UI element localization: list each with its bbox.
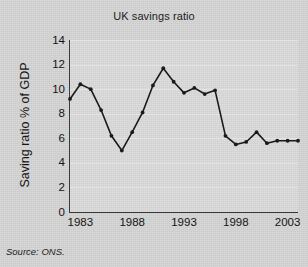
data-point-marker	[78, 82, 82, 86]
data-point-marker	[296, 139, 300, 143]
chart-figure: UK savings ratio Saving ratio % of GDP 0…	[0, 0, 308, 267]
data-point-marker	[151, 84, 155, 88]
x-tick-label: 1998	[214, 216, 258, 228]
data-point-marker	[99, 108, 103, 112]
data-point-marker	[141, 111, 145, 115]
data-point-marker	[203, 92, 207, 96]
x-tick-label: 1988	[110, 216, 154, 228]
data-point-marker	[182, 91, 186, 95]
data-point-marker	[286, 139, 290, 143]
data-point-marker	[192, 86, 196, 90]
x-tick-label: 1993	[162, 216, 206, 228]
data-point-marker	[68, 97, 72, 101]
data-point-marker	[265, 141, 269, 145]
data-point-marker	[275, 139, 279, 143]
data-point-marker	[161, 66, 165, 70]
x-tick-label: 1983	[58, 216, 102, 228]
data-point-marker	[244, 140, 248, 144]
data-point-marker	[255, 130, 259, 134]
data-point-marker	[172, 80, 176, 84]
data-point-marker	[213, 88, 217, 92]
series-polyline	[70, 68, 298, 150]
data-point-marker	[110, 134, 114, 138]
x-tick-label: 2003	[266, 216, 308, 228]
source-note: Source: ONS.	[6, 246, 65, 257]
data-point-marker	[89, 87, 93, 91]
data-point-marker	[130, 130, 134, 134]
data-point-marker	[224, 134, 228, 138]
data-point-marker	[234, 143, 238, 147]
data-point-marker	[120, 149, 124, 153]
